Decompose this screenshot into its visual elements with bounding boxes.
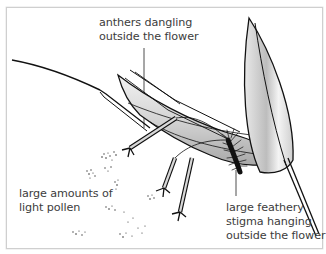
pollen-label: large amounts of light pollen (19, 187, 113, 215)
upper-bract-icon (245, 18, 294, 173)
anthers-label: anthers dangling outside the flower (99, 16, 198, 44)
pollen-label-line-2: light pollen (19, 201, 113, 215)
stigma-label: large feathery stigma hanging outside th… (226, 201, 325, 243)
stigma-label-line-1: large feathery (226, 201, 325, 215)
pollen-label-line-1: large amounts of (19, 187, 113, 201)
anthers-label-line-1: anthers dangling (99, 16, 198, 30)
stigma-label-line-2: stigma hanging (226, 215, 325, 229)
anthers-label-line-2: outside the flower (99, 30, 198, 44)
stigma-label-line-3: outside the flower (226, 229, 325, 243)
